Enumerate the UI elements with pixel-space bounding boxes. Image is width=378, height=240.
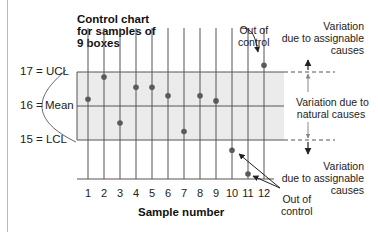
lcl-label: 15 = LCL xyxy=(20,133,67,145)
x-tick-label: 1 xyxy=(80,187,96,199)
x-tick-label: 9 xyxy=(208,187,224,199)
x-tick-label: 2 xyxy=(96,187,112,199)
data-point xyxy=(117,120,123,126)
out-of-control-bottom-annotation: Out of control xyxy=(281,193,313,217)
ucl-label: 17 = UCL xyxy=(20,65,69,77)
data-point xyxy=(133,85,139,91)
x-tick-label: 10 xyxy=(224,187,240,199)
data-point xyxy=(101,74,107,80)
assignable-causes-top-annotation: Variation due to assignable causes xyxy=(280,20,364,56)
data-point xyxy=(85,96,91,102)
natural-causes-annotation: Variation due to natural causes xyxy=(296,96,366,120)
out-of-control-pointer-10 xyxy=(239,154,280,188)
data-point xyxy=(229,147,235,153)
x-tick-label: 4 xyxy=(128,187,144,199)
assignable-causes-bottom-annotation: Variation due to assignable causes xyxy=(280,160,364,196)
mean-label-number: 16 = xyxy=(20,99,43,111)
data-point xyxy=(245,171,251,177)
data-point xyxy=(181,129,187,135)
mean-label-word: Mean xyxy=(45,99,74,111)
x-tick-label: 3 xyxy=(112,187,128,199)
x-tick-label: 8 xyxy=(192,187,208,199)
x-tick-label: 11 xyxy=(240,187,256,199)
x-axis-label: Sample number xyxy=(138,206,224,218)
data-point xyxy=(261,62,267,68)
x-tick-label: 6 xyxy=(160,187,176,199)
data-point xyxy=(149,85,155,91)
data-point xyxy=(165,93,171,99)
x-tick-label: 7 xyxy=(176,187,192,199)
x-tick-label: 12 xyxy=(256,187,272,199)
x-tick-label: 5 xyxy=(144,187,160,199)
data-point xyxy=(213,98,219,104)
out-of-control-top-annotation: Out of control xyxy=(238,24,270,48)
data-point xyxy=(197,93,203,99)
